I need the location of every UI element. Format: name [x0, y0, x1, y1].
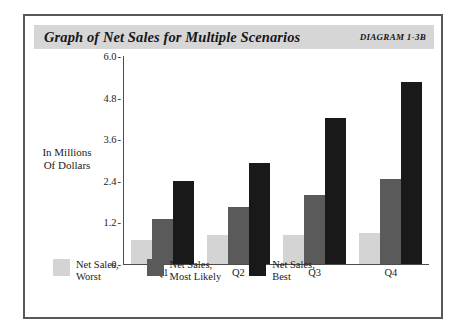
y-axis-tick: 4.8 [103, 92, 121, 103]
legend-swatch [53, 259, 70, 276]
legend-swatch [147, 259, 164, 276]
bar [249, 163, 270, 264]
legend-item: Net Sales,Worst [53, 259, 119, 282]
bar [325, 118, 346, 264]
bar-series-container [124, 56, 429, 264]
bar [228, 207, 249, 264]
legend-label: Net Sales,Worst [76, 259, 119, 282]
bar [152, 219, 173, 264]
legend-item: Net Sales,Most Likely [147, 259, 222, 282]
y-axis-tick: 6.0 [103, 51, 121, 62]
y-axis-tick: 3.6 [103, 134, 121, 145]
legend-label: Net Sales,Best [272, 259, 315, 282]
bar [173, 181, 194, 264]
page-title: Graph of Net Sales for Multiple Scenario… [44, 29, 300, 46]
bar-group-q2 [200, 56, 276, 264]
bar-group-q3 [277, 56, 353, 264]
bar-group-q1 [124, 56, 200, 264]
bar [304, 195, 325, 264]
bar [401, 82, 422, 264]
chart-figure: Graph of Net Sales for Multiple Scenario… [23, 14, 443, 319]
chart-legend: Net Sales,WorstNet Sales,Most LikelyNet … [53, 259, 425, 282]
y-axis-tick: 2.4 [103, 175, 121, 186]
chart-title-bar: Graph of Net Sales for Multiple Scenario… [34, 25, 434, 49]
y-axis-tick-labels: 01.22.43.64.86.0 [87, 56, 121, 264]
legend-label: Net Sales,Most Likely [170, 259, 222, 282]
y-axis-tick: 1.2 [103, 217, 121, 228]
legend-swatch [249, 259, 266, 276]
bar [380, 179, 401, 264]
legend-item: Net Sales,Best [249, 259, 315, 282]
diagram-label: DIAGRAM 1-3B [360, 32, 426, 42]
bar-group-q4 [353, 56, 429, 264]
